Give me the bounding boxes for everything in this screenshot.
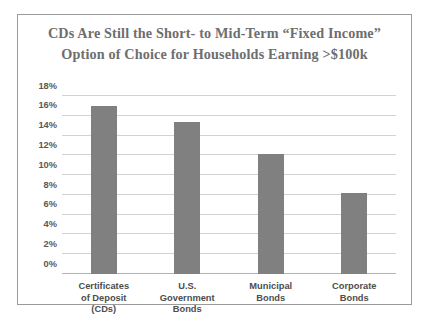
bar[interactable] — [258, 154, 284, 274]
chart-title: CDs Are Still the Short- to Mid-Term “Fi… — [18, 23, 411, 65]
x-axis-category-label-line: Government — [145, 293, 229, 305]
plot-area: 18%16%14%12%10%8%6%4%2%0% Certificatesof… — [62, 96, 396, 274]
x-axis-category-label: U.S.GovernmentBonds — [145, 281, 229, 316]
y-axis-tick-label: 12% — [38, 141, 57, 150]
bar[interactable] — [174, 122, 200, 274]
chart-figure: CDs Are Still the Short- to Mid-Term “Fi… — [17, 14, 412, 305]
bar-slot — [313, 96, 397, 274]
x-axis-category-label-line: Certificates — [62, 281, 146, 293]
bar-slot — [229, 96, 313, 274]
bar[interactable] — [341, 193, 367, 274]
bar[interactable] — [91, 106, 117, 274]
chart-title-line-1: CDs Are Still the Short- to Mid-Term “Fi… — [18, 23, 411, 44]
y-axis-tick-label: 2% — [44, 240, 57, 249]
x-axis-category-label-line: U.S. — [145, 281, 229, 293]
x-axis-category-label-line: Corporate — [312, 281, 396, 293]
bar-slot — [62, 96, 146, 274]
y-axis-tick-label: 6% — [44, 201, 57, 210]
x-axis-category-label: CorporateBonds — [312, 281, 396, 304]
x-axis-category-label-line: Bonds — [312, 293, 396, 305]
x-axis-category-label-line: Bonds — [145, 304, 229, 316]
bar-slot — [146, 96, 230, 274]
y-axis-tick-label: 16% — [38, 102, 57, 111]
x-axis-category-label: Certificatesof Deposit(CDs) — [62, 281, 146, 316]
x-axis-category-label-line: Municipal — [229, 281, 313, 293]
y-axis-tick-label: 18% — [38, 82, 57, 91]
y-axis-tick-label: 0% — [44, 260, 57, 269]
y-axis-tick-label: 4% — [44, 221, 57, 230]
y-axis-tick-label: 10% — [38, 161, 57, 170]
x-axis-category-label-line: Bonds — [229, 293, 313, 305]
y-axis-tick-label: 14% — [38, 122, 57, 131]
x-axis-category-label-line: (CDs) — [62, 304, 146, 316]
bar-series — [62, 96, 396, 274]
x-axis-category-label-line: of Deposit — [62, 293, 146, 305]
y-axis-tick-label: 8% — [44, 181, 57, 190]
x-axis-category-label: MunicipalBonds — [229, 281, 313, 304]
chart-title-line-2: Option of Choice for Households Earning … — [18, 44, 411, 65]
